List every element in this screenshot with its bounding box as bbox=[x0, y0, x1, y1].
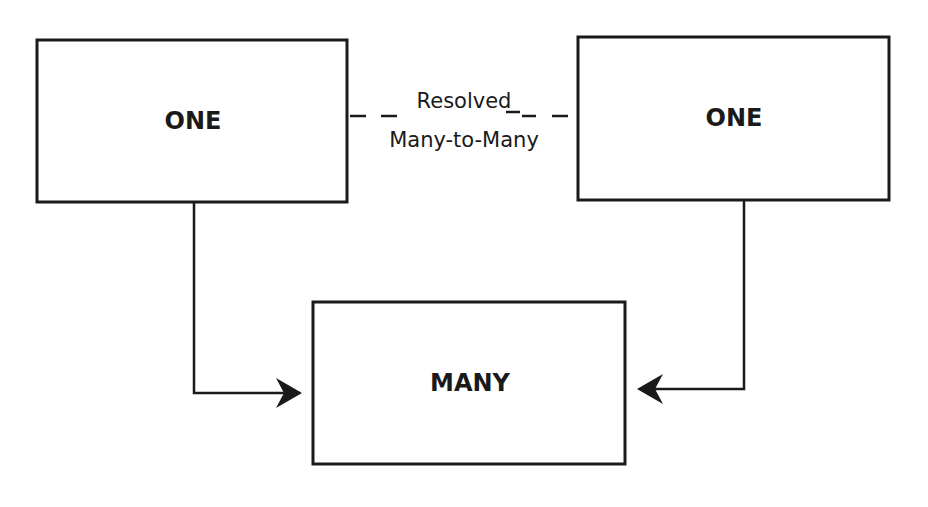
entity-label-right-one: ONE bbox=[706, 104, 763, 132]
entity-left-one: ONE bbox=[37, 40, 347, 202]
entity-right-one: ONE bbox=[578, 37, 889, 200]
diagram-canvas: ONE ONE MANY Resolved Many-to-Many bbox=[0, 0, 928, 507]
relationship-label-line1: Resolved bbox=[417, 89, 512, 113]
entity-label-many: MANY bbox=[430, 369, 511, 397]
entity-many: MANY bbox=[313, 302, 625, 464]
connector-line-left bbox=[194, 202, 288, 393]
er-diagram: ONE ONE MANY Resolved Many-to-Many bbox=[0, 0, 928, 507]
connector-right-to-many bbox=[637, 200, 744, 404]
connector-line-right bbox=[650, 200, 744, 389]
entity-label-left-one: ONE bbox=[165, 107, 222, 135]
relationship-label-line2: Many-to-Many bbox=[389, 128, 539, 152]
connector-left-to-many bbox=[194, 202, 302, 408]
